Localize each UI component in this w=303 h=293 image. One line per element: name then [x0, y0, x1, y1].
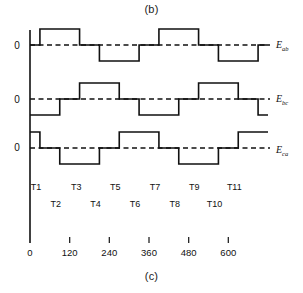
- interval-label-t8: T8: [170, 199, 181, 209]
- x-tick-label-origin: 0: [27, 247, 32, 258]
- interval-labels-lower: T2T4T6T8T10: [51, 199, 223, 209]
- interval-label-t2: T2: [51, 199, 62, 209]
- x-tick-label-240: 240: [101, 247, 117, 258]
- zero-label-ebc: 0: [14, 94, 20, 105]
- signal-label-eca: Eca: [275, 144, 288, 157]
- signal-base-ebc: E: [275, 93, 282, 104]
- waveform-plot: 0 0 0 Eab Ebc Eca T1T3T5T7T9T11 T2T4T6T8…: [0, 0, 303, 293]
- x-tick-label-120: 120: [62, 247, 78, 258]
- interval-label-t9: T9: [189, 182, 200, 192]
- figure-caption-c: (c): [0, 270, 303, 282]
- signal-sub-eca: ca: [282, 150, 288, 157]
- signal-base-eca: E: [275, 144, 282, 155]
- signal-sub-ebc: bc: [282, 99, 288, 106]
- signal-sub-eab: ab: [282, 45, 289, 52]
- figure-caption-b: (b): [0, 3, 303, 15]
- signal-label-eab: Eab: [275, 39, 289, 52]
- interval-labels-upper: T1T3T5T7T9T11: [31, 182, 242, 192]
- zero-label-eca: 0: [14, 142, 20, 153]
- interval-label-t1: T1: [31, 182, 42, 192]
- x-tick-label-360: 360: [141, 247, 157, 258]
- figure-container: (b) 0 0 0 Eab Ebc Eca T1T3T5T7T9T11 T2T4…: [0, 0, 303, 293]
- zero-label-eab: 0: [14, 40, 20, 51]
- interval-label-t6: T6: [130, 199, 141, 209]
- x-tick-label-600: 600: [220, 247, 236, 258]
- x-axis-ticks: 120240360480600: [62, 237, 236, 258]
- interval-label-t4: T4: [90, 199, 101, 209]
- x-tick-label-480: 480: [181, 247, 197, 258]
- signal-label-ebc: Ebc: [275, 93, 288, 106]
- interval-label-t7: T7: [150, 182, 161, 192]
- signal-base-eab: E: [275, 39, 282, 50]
- interval-label-t5: T5: [110, 182, 121, 192]
- interval-label-t10: T10: [207, 199, 223, 209]
- interval-label-t3: T3: [71, 182, 82, 192]
- interval-label-t11: T11: [227, 182, 242, 192]
